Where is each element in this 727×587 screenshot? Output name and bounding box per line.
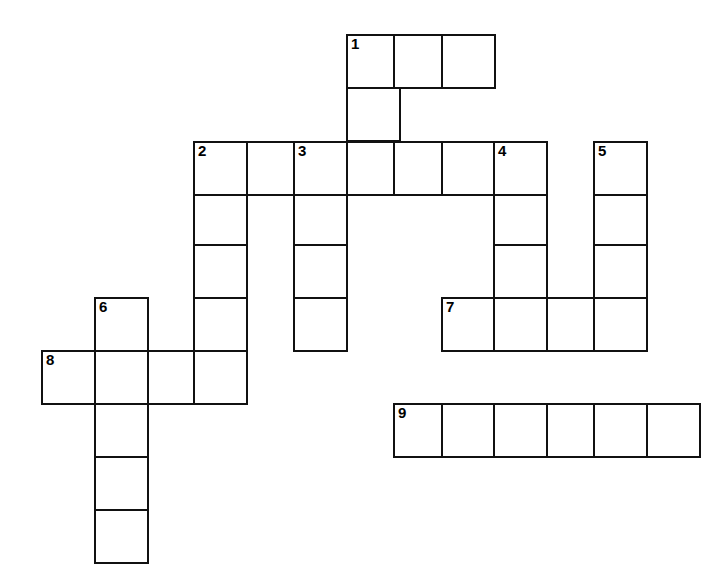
- crossword-cell[interactable]: 7: [441, 297, 496, 352]
- crossword-cell-number: 8: [46, 352, 54, 368]
- crossword-cell[interactable]: 9: [393, 403, 448, 458]
- crossword-cell[interactable]: 2: [193, 141, 248, 196]
- crossword-cell[interactable]: 4: [493, 141, 548, 196]
- crossword-cell-number: 2: [198, 143, 206, 159]
- crossword-cell-number: 7: [446, 299, 454, 315]
- crossword-cell[interactable]: [493, 194, 548, 249]
- crossword-cell[interactable]: [493, 403, 548, 458]
- crossword-cell[interactable]: [593, 244, 648, 299]
- crossword-cell[interactable]: 3: [293, 141, 348, 196]
- crossword-cell[interactable]: [293, 194, 348, 249]
- crossword-cell[interactable]: [393, 34, 448, 89]
- crossword-cell[interactable]: [493, 297, 548, 352]
- crossword-cell-number: 9: [398, 405, 406, 421]
- crossword-cell-number: 4: [498, 143, 506, 159]
- crossword-cell[interactable]: [94, 509, 149, 564]
- crossword-cell[interactable]: [94, 403, 149, 458]
- crossword-cell[interactable]: [94, 456, 149, 511]
- crossword-cell[interactable]: [346, 87, 401, 142]
- crossword-cell[interactable]: [193, 194, 248, 249]
- crossword-cell[interactable]: [193, 297, 248, 352]
- crossword-cell[interactable]: 8: [41, 350, 96, 405]
- crossword-cell[interactable]: [441, 34, 496, 89]
- crossword-cell[interactable]: [493, 244, 548, 299]
- crossword-cell[interactable]: [293, 244, 348, 299]
- crossword-cell[interactable]: [94, 350, 149, 405]
- crossword-cell-number: 6: [99, 299, 107, 315]
- crossword-cell[interactable]: [593, 194, 648, 249]
- crossword-cell[interactable]: [441, 403, 496, 458]
- crossword-cell[interactable]: [293, 297, 348, 352]
- crossword-cell[interactable]: 6: [94, 297, 149, 352]
- crossword-cell[interactable]: 5: [593, 141, 648, 196]
- crossword-cell[interactable]: [593, 297, 648, 352]
- crossword-cell-number: 5: [598, 143, 606, 159]
- crossword-grid[interactable]: 123456789: [0, 0, 727, 587]
- crossword-cell[interactable]: [441, 141, 496, 196]
- crossword-cell[interactable]: [393, 141, 448, 196]
- crossword-cell[interactable]: [193, 350, 248, 405]
- crossword-cell[interactable]: [593, 403, 648, 458]
- crossword-puzzle-stage: 123456789: [0, 0, 727, 587]
- crossword-cell-number: 3: [298, 143, 306, 159]
- crossword-cell[interactable]: [646, 403, 701, 458]
- crossword-cell-number: 1: [351, 36, 359, 52]
- crossword-cell[interactable]: [193, 244, 248, 299]
